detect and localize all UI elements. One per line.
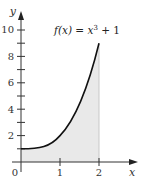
title-suffix: + 1: [98, 24, 120, 36]
y-tick-label-8: 8: [8, 51, 14, 62]
y-tick-label-6: 6: [8, 77, 14, 88]
y-axis-label: y: [9, 5, 17, 18]
x-axis-arrow-icon: [129, 159, 138, 165]
y-tick-label-2: 2: [8, 130, 14, 141]
x-axis-label: x: [129, 166, 136, 179]
y-tick-label-10: 10: [1, 24, 14, 35]
y-axis-arrow-icon: [18, 11, 24, 20]
x-tick-label-1: 1: [57, 167, 63, 178]
x-tick-label-0: 0: [12, 167, 18, 178]
title-prefix: f(x) = x: [53, 24, 93, 36]
shaded-area: [21, 43, 99, 162]
chart-title: f(x) = x3 + 1: [53, 24, 120, 36]
x-tick-label-2: 2: [96, 167, 102, 178]
chart: 2 4 6 8 10 y 0 1 2 x f(x) = x3 + 1: [0, 0, 141, 183]
y-tick-label-4: 4: [8, 104, 14, 115]
